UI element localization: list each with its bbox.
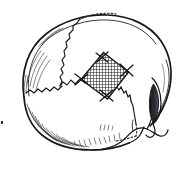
skull-illustration-figure: Lateral skull with cranial mesh implant … <box>0 0 188 174</box>
skull-illustration-canvas <box>0 0 188 174</box>
edge-speck <box>1 121 3 124</box>
